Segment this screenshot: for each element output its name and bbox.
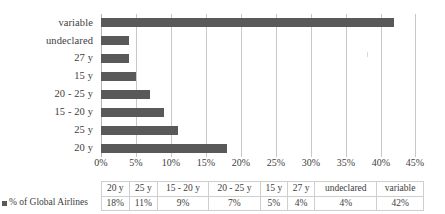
table-data-row: % of Global Airlines 18% 11% 9% 7% 5% 4%…	[0, 196, 424, 211]
table-value-25y: 11%	[129, 196, 157, 211]
bar-row	[101, 32, 416, 50]
table-header-15-20y: 15 - 20 y	[157, 182, 208, 197]
category-label-20y: 20 y	[0, 139, 98, 157]
plot-area	[101, 14, 416, 157]
xtick-label-0: 0%	[94, 158, 107, 168]
category-axis: variable undeclared 27 y 15 y 20 - 25 y …	[0, 14, 98, 157]
table-header-variable: variable	[377, 182, 424, 197]
bar-25y[interactable]	[101, 126, 178, 135]
bar-row	[101, 121, 416, 139]
table-header-25y: 25 y	[129, 182, 157, 197]
series-name-text: % of Global Airlines	[9, 198, 88, 208]
table-value-20-25y: 7%	[209, 196, 260, 211]
legend-series-label: % of Global Airlines	[0, 196, 101, 211]
xtick-label-30: 30%	[302, 158, 320, 168]
bar-15-20y[interactable]	[101, 108, 164, 117]
plot-region: variable undeclared 27 y 15 y 20 - 25 y …	[0, 8, 445, 160]
category-label-variable: variable	[0, 14, 98, 32]
bar-20y[interactable]	[101, 144, 227, 153]
category-label-25y: 25 y	[0, 121, 98, 139]
bars-layer	[101, 14, 416, 157]
bar-row	[101, 103, 416, 121]
bar-row	[101, 139, 416, 157]
xtick-label-20: 20%	[232, 158, 250, 168]
bar-undeclared[interactable]	[101, 36, 129, 45]
bar-row	[101, 86, 416, 104]
table-header-20-25y: 20 - 25 y	[209, 182, 260, 197]
legend-swatch-icon	[2, 201, 7, 206]
xtick-label-10: 10%	[162, 158, 180, 168]
category-label-undeclared: undeclared	[0, 32, 98, 50]
data-table: 20 y 25 y 15 - 20 y 20 - 25 y 15 y 27 y …	[0, 181, 424, 211]
category-label-15-20y: 15 - 20 y	[0, 103, 98, 121]
bar-15y[interactable]	[101, 72, 136, 81]
value-axis: 0% 5% 10% 15% 20% 25% 30% 35% 40% 45%	[101, 158, 416, 174]
table-header-20y: 20 y	[101, 182, 129, 197]
category-label-20-25y: 20 - 25 y	[0, 86, 98, 104]
bar-row	[101, 50, 416, 68]
xtick-label-40: 40%	[372, 158, 390, 168]
xtick-label-25: 25%	[267, 158, 285, 168]
bar-variable[interactable]	[101, 18, 394, 27]
table-value-15y: 5%	[260, 196, 287, 211]
category-label-15y: 15 y	[0, 68, 98, 86]
table-value-variable: 42%	[377, 196, 424, 211]
table-header-27y: 27 y	[287, 182, 314, 197]
table-header-row: 20 y 25 y 15 - 20 y 20 - 25 y 15 y 27 y …	[0, 182, 424, 197]
table-header-undeclared: undeclared	[315, 182, 377, 197]
bar-chart-figure: variable undeclared 27 y 15 y 20 - 25 y …	[0, 0, 445, 214]
table-corner-cell	[0, 182, 101, 197]
bar-row	[101, 68, 416, 86]
table-value-27y: 4%	[287, 196, 314, 211]
table-value-20y: 18%	[101, 196, 129, 211]
table-value-15-20y: 9%	[157, 196, 208, 211]
table-header-15y: 15 y	[260, 182, 287, 197]
table-value-undeclared: 4%	[315, 196, 377, 211]
xtick-label-15: 15%	[197, 158, 215, 168]
xtick-label-45: 45%	[406, 158, 424, 168]
scan-artifact-speck	[367, 52, 368, 57]
category-label-27y: 27 y	[0, 50, 98, 68]
bar-row	[101, 14, 416, 32]
xtick-label-35: 35%	[337, 158, 355, 168]
bar-27y[interactable]	[101, 54, 129, 63]
bar-20-25y[interactable]	[101, 90, 150, 99]
xtick-label-5: 5%	[129, 158, 142, 168]
